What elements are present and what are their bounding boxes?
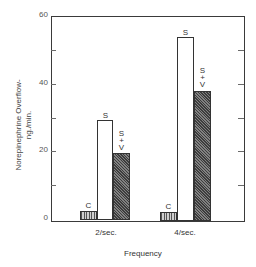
chart-frame bbox=[51, 16, 245, 222]
y-tick-50 bbox=[51, 50, 56, 51]
right-tick-50 bbox=[238, 50, 244, 51]
y-label-20: 20 bbox=[34, 145, 48, 154]
x-axis-title: Frequency bbox=[124, 249, 162, 258]
x-category-4sec: 4/sec. bbox=[165, 228, 205, 237]
right-tick-10 bbox=[238, 185, 244, 186]
bar-label-2sec-s: S bbox=[97, 112, 114, 119]
y-axis-title-line2: ng./min. bbox=[24, 60, 34, 190]
y-axis-title-line1: Norepinephrine Overflow- bbox=[14, 60, 24, 190]
bar-2sec-s bbox=[97, 120, 113, 220]
bar-4sec-s bbox=[177, 37, 194, 221]
bar-4sec-c bbox=[160, 212, 177, 221]
y-tick-10 bbox=[51, 185, 56, 186]
sv-v: V bbox=[194, 81, 211, 88]
y-label-60: 60 bbox=[34, 10, 48, 19]
right-tick-40 bbox=[238, 84, 244, 85]
bar-label-2sec-sv: S + V bbox=[113, 130, 130, 151]
bar-label-4sec-s: S bbox=[177, 29, 194, 36]
bar-label-2sec-c: C bbox=[80, 202, 97, 209]
y-tick-30 bbox=[51, 118, 56, 119]
right-tick-30 bbox=[238, 118, 244, 119]
y-tick-20 bbox=[51, 151, 56, 152]
bar-label-4sec-sv: S + V bbox=[194, 67, 211, 88]
bar-4sec-sv bbox=[194, 91, 211, 221]
sv-v: V bbox=[113, 144, 130, 151]
y-tick-40 bbox=[51, 84, 56, 85]
y-axis-title: Norepinephrine Overflow- ng./min. bbox=[14, 60, 34, 190]
bar-2sec-c bbox=[80, 211, 97, 220]
y-label-40: 40 bbox=[34, 78, 48, 87]
bar-label-4sec-c: C bbox=[160, 203, 177, 210]
bar-2sec-sv bbox=[113, 153, 130, 220]
y-label-0: 0 bbox=[34, 213, 48, 222]
right-tick-20 bbox=[238, 151, 244, 152]
x-category-2sec: 2/sec. bbox=[86, 228, 126, 237]
